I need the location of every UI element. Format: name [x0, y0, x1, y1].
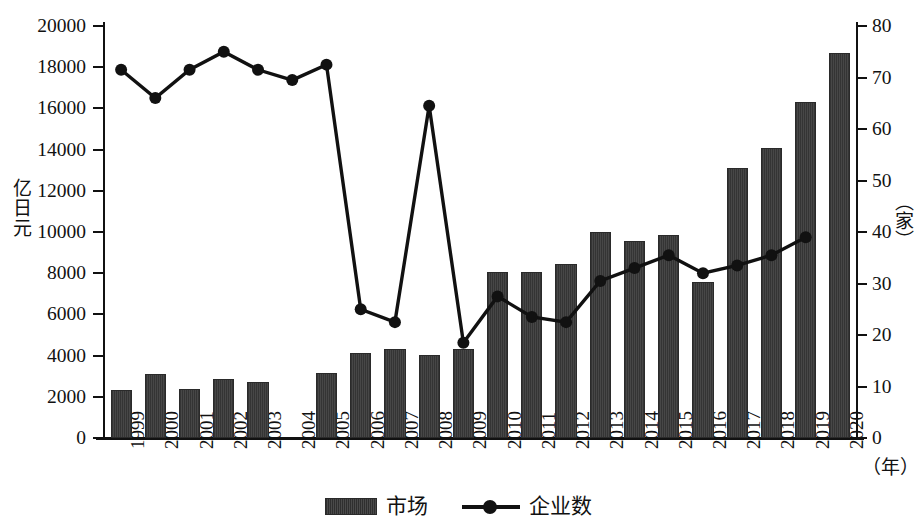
line-swatch-dot: [483, 500, 497, 514]
plot-area: [104, 26, 857, 438]
y-axis-left-tick: [93, 149, 104, 151]
y-axis-right-tick: [856, 283, 867, 285]
y-axis-left-tick-label: 20000: [0, 16, 86, 36]
y-axis-left-tick: [93, 313, 104, 315]
bar: [795, 102, 816, 438]
legend-item-market: 市场: [325, 496, 428, 517]
y-axis-left-tick: [93, 355, 104, 357]
bar: [419, 355, 440, 438]
y-axis-left-tick-label: 4000: [0, 346, 86, 366]
bar: [487, 272, 508, 438]
y-axis-left-tick: [93, 396, 104, 398]
chart-figure: 亿日元 （家） （年） 2000018000160001400012000100…: [0, 0, 917, 531]
bar: [624, 241, 645, 438]
y-axis-left-tick: [93, 25, 104, 27]
line-marker: [252, 64, 264, 76]
bar: [658, 235, 679, 438]
y-axis-left-tick-label: 8000: [0, 263, 86, 283]
y-axis-right-tick-label: 70: [872, 68, 912, 88]
y-axis-left-tick-label: 2000: [0, 387, 86, 407]
bar: [213, 379, 234, 438]
line-marker: [286, 74, 298, 86]
bar: [247, 382, 268, 438]
y-axis-left-tick-label: 12000: [0, 181, 86, 201]
y-axis-right-tick: [856, 25, 867, 27]
bar: [521, 272, 542, 438]
bar: [145, 374, 166, 438]
line-marker: [697, 267, 709, 279]
bar: [350, 353, 371, 438]
bar: [179, 389, 200, 438]
y-axis-right-tick-label: 10: [872, 377, 912, 397]
line-marker: [320, 59, 332, 71]
y-axis-right-tick-label: 20: [872, 325, 912, 345]
y-axis-left-tick-label: 14000: [0, 140, 86, 160]
y-axis-right-tick-label: 60: [872, 119, 912, 139]
y-axis-left-tick-label: 18000: [0, 57, 86, 77]
bar: [761, 148, 782, 438]
y-axis-left-tick: [93, 272, 104, 274]
line-marker: [423, 100, 435, 112]
y-axis-left-tick-label: 0: [0, 428, 86, 448]
y-axis-left-tick: [93, 107, 104, 109]
line-marker: [389, 316, 401, 328]
y-axis-right-tick: [856, 180, 867, 182]
y-axis-right-tick: [856, 128, 867, 130]
y-axis-right-tick: [856, 231, 867, 233]
line-marker: [115, 64, 127, 76]
y-axis-right-tick-label: 40: [872, 222, 912, 242]
bar: [829, 53, 850, 438]
bar: [590, 232, 611, 438]
line-dot-swatch-icon: [462, 499, 520, 515]
bar: [692, 282, 713, 438]
line-marker: [457, 337, 469, 349]
line-marker: [149, 92, 161, 104]
y-axis-left-tick: [93, 231, 104, 233]
y-axis-left-tick: [93, 190, 104, 192]
legend-label-enterprises: 企业数: [529, 496, 592, 517]
y-axis-right-tick-label: 30: [872, 274, 912, 294]
chart-legend: 市场 企业数: [0, 496, 917, 517]
y-axis-left-tick: [93, 66, 104, 68]
y-axis-left-tick-label: 6000: [0, 304, 86, 324]
line-marker: [218, 46, 230, 58]
y-axis-right-tick: [856, 334, 867, 336]
bar-swatch-icon: [325, 498, 377, 515]
bar: [453, 349, 474, 438]
y-axis-left-tick-label: 10000: [0, 222, 86, 242]
bar: [555, 264, 576, 438]
bar: [111, 390, 132, 438]
y-axis-left-tick-label: 16000: [0, 98, 86, 118]
legend-item-enterprises: 企业数: [462, 496, 592, 517]
y-axis-right-tick-label: 80: [872, 16, 912, 36]
bar: [384, 349, 405, 438]
x-axis-title: （年）: [862, 452, 917, 479]
y-axis-right-tick: [856, 77, 867, 79]
y-axis-right-tick-label: 0: [872, 428, 912, 448]
y-axis-left-tick: [93, 437, 104, 439]
bar: [727, 168, 748, 438]
y-axis-right-tick-label: 50: [872, 171, 912, 191]
line-marker: [184, 64, 196, 76]
legend-label-market: 市场: [386, 496, 428, 517]
line-marker: [355, 303, 367, 315]
bar: [316, 373, 337, 438]
